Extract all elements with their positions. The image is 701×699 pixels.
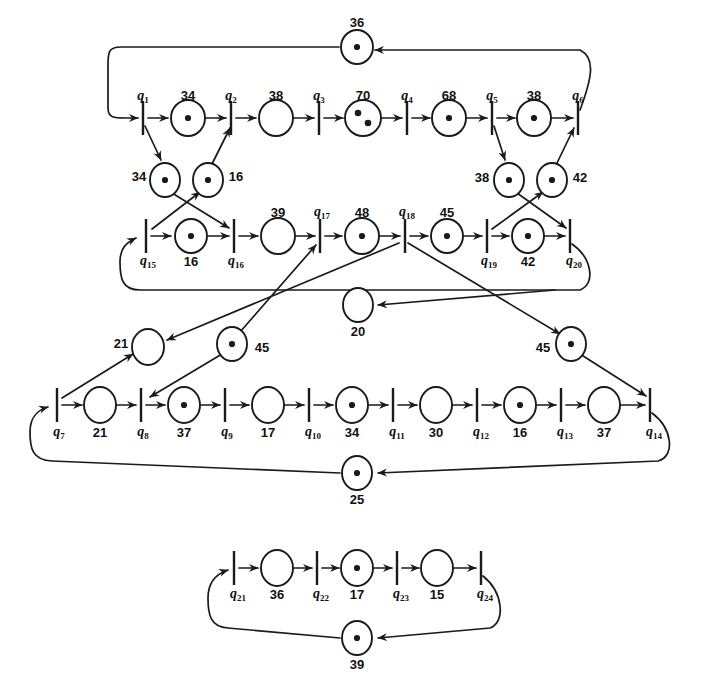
place-label: 34 [132, 169, 146, 184]
place-label: 36 [270, 587, 284, 602]
place-label: 16 [513, 425, 527, 440]
transition-label: q5 [486, 88, 498, 104]
token [506, 177, 512, 183]
transition-label: q22 [313, 586, 329, 602]
token [444, 233, 450, 239]
place-label: 16 [184, 254, 198, 269]
transition-label: q6 [572, 88, 584, 104]
place [132, 329, 164, 365]
arc [378, 290, 555, 305]
token [525, 233, 531, 239]
transition-label: q9 [221, 424, 233, 440]
place [341, 30, 373, 64]
token [549, 177, 555, 183]
token [446, 115, 452, 121]
place [512, 219, 544, 253]
transition-label: q13 [557, 424, 573, 440]
place-label: 39 [271, 205, 285, 220]
place [494, 163, 524, 197]
transition-label: q7 [53, 424, 65, 440]
place-label: 36 [350, 15, 364, 30]
transition-label: q12 [473, 424, 489, 440]
token [355, 110, 362, 117]
token [568, 341, 574, 347]
transition-label: q21 [230, 586, 246, 602]
place [342, 621, 372, 655]
place [432, 100, 466, 136]
place-label: 37 [597, 425, 611, 440]
place-circle [259, 100, 293, 136]
token [349, 402, 355, 408]
place [421, 550, 453, 586]
place-label: 38 [475, 170, 489, 185]
place [150, 163, 180, 197]
arc [212, 128, 230, 164]
place [556, 327, 586, 361]
place-label: 16 [229, 169, 243, 184]
arc [240, 245, 316, 332]
place-label: 42 [573, 170, 587, 185]
place [537, 163, 567, 197]
token [531, 115, 537, 121]
place-label: 39 [350, 657, 364, 672]
transition-label: q17 [314, 204, 330, 220]
token [354, 565, 360, 571]
place-label: 20 [351, 324, 365, 339]
place [171, 100, 205, 136]
place [341, 550, 373, 586]
transition-label: q14 [646, 424, 662, 440]
place-label: 37 [177, 425, 191, 440]
place-label: 42 [521, 254, 535, 269]
place [336, 387, 368, 423]
place-label: 15 [430, 587, 444, 602]
place-label: 48 [355, 205, 369, 220]
place-label: 25 [350, 492, 364, 507]
place-label: 17 [261, 425, 275, 440]
place [259, 100, 293, 136]
place-circle [252, 387, 284, 423]
place [345, 218, 379, 254]
place-label: 45 [536, 340, 550, 355]
place [252, 387, 284, 423]
transition-label: q1 [137, 88, 149, 104]
transition-label: q23 [393, 586, 409, 602]
place-circle [345, 100, 381, 136]
transition-label: q16 [228, 253, 244, 269]
transition-label: q11 [389, 424, 405, 440]
token [229, 341, 235, 347]
place-circle [421, 550, 453, 586]
transition-label: q20 [566, 253, 582, 269]
token [181, 402, 187, 408]
place-label: 30 [429, 425, 443, 440]
place [588, 387, 620, 423]
place [343, 288, 373, 322]
place-label: 70 [356, 88, 370, 103]
place [420, 387, 452, 423]
place-label: 45 [255, 340, 269, 355]
place [261, 218, 295, 254]
place-circle [132, 329, 164, 365]
token [354, 44, 360, 50]
place-label: 21 [114, 336, 128, 351]
token [517, 402, 523, 408]
place-label: 45 [440, 205, 454, 220]
transition-label: q3 [313, 88, 325, 104]
place-label: 68 [442, 88, 456, 103]
token [185, 115, 191, 121]
place-circle [588, 387, 620, 423]
place-circle [261, 550, 293, 586]
transition-label: q24 [477, 586, 493, 602]
token [359, 233, 365, 239]
token [188, 233, 194, 239]
transition-label: q10 [305, 424, 321, 440]
token [205, 177, 211, 183]
place-label: 38 [269, 88, 283, 103]
place [168, 387, 200, 423]
transition-label: q2 [225, 88, 237, 104]
place [84, 387, 116, 423]
place-circle [420, 387, 452, 423]
place-label: 38 [527, 88, 541, 103]
place-circle [261, 218, 295, 254]
arc [494, 126, 505, 160]
place [517, 100, 551, 136]
